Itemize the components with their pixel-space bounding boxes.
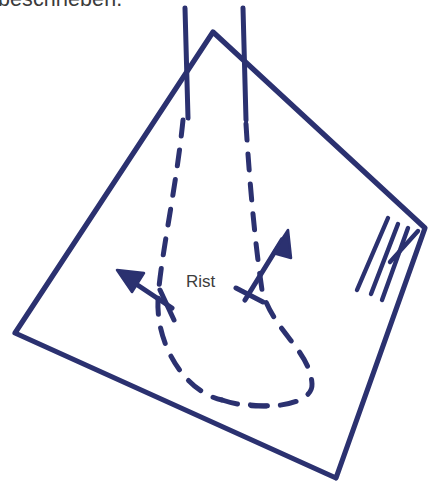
peak-right-vertical-line	[243, 8, 246, 120]
peak-left-vertical-line	[185, 8, 188, 118]
right-arrow	[236, 230, 291, 302]
rist-label: Rist	[186, 272, 215, 292]
left-arrow	[117, 270, 174, 320]
foot-outline-left-edge	[158, 120, 222, 400]
fringe-hatching	[357, 218, 418, 300]
sketch-page: beschrieben.	[0, 0, 444, 496]
cloth-quadrilateral	[15, 32, 425, 478]
right-arrow-head	[273, 230, 291, 258]
hand-drawn-diagram	[0, 0, 444, 496]
fringe-stroke	[357, 218, 388, 290]
foot-outline-dashed	[158, 120, 312, 406]
foot-outline-right-edge	[245, 124, 312, 406]
